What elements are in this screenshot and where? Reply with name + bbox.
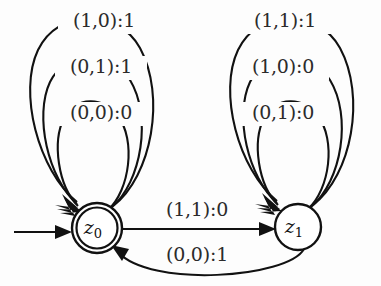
self-loop-labels-z1: (1,1):1 (1,0):0 (0,1):0 xyxy=(237,9,331,126)
self-loop-labels-z0: (1,0):1 (0,1):1 (0,0):0 xyxy=(55,9,150,126)
transition-labels: (1,1):0 (0,0):1 xyxy=(151,198,243,268)
transition-z1-to-z0-label: (0,0):1 xyxy=(166,243,228,265)
self-loop-z0-middle-label: (0,1):1 xyxy=(70,55,132,77)
self-loop-z1-inner-label: (0,1):0 xyxy=(252,101,314,123)
self-loop-z0-outer-label: (1,0):1 xyxy=(73,9,135,31)
state-machine-diagram: z0 z1 (1,0):1 (0,1):1 (0,0):0 (1,1):1 (1… xyxy=(0,0,381,286)
state-node-z0[interactable]: z0 xyxy=(72,203,122,253)
self-loop-z1-outer-label: (1,1):1 xyxy=(254,9,316,31)
self-loop-z1-middle-label: (1,0):0 xyxy=(252,55,314,77)
transition-z0-to-z1 xyxy=(122,222,276,236)
initial-state-arrow xyxy=(14,225,72,239)
initial-state-arrowhead xyxy=(55,225,72,239)
transition-z0-to-z1-label: (1,1):0 xyxy=(166,198,228,220)
state-node-z1[interactable]: z1 xyxy=(275,204,321,250)
self-loop-z0-inner-label: (0,0):0 xyxy=(70,101,132,123)
fsm-canvas: z0 z1 (1,0):1 (0,1):1 (0,0):0 (1,1):1 (1… xyxy=(0,0,381,286)
transition-z0-to-z1-arrowhead xyxy=(259,222,276,236)
